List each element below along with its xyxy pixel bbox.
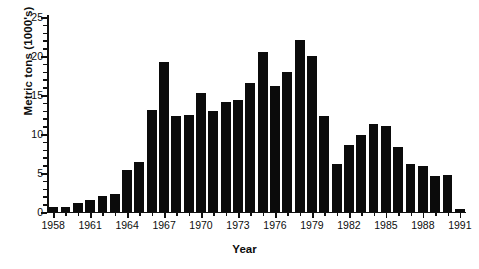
y-tick	[43, 126, 48, 127]
x-tick	[312, 212, 314, 218]
x-tick-label: 1970	[189, 219, 212, 231]
bar	[147, 110, 157, 212]
bar	[73, 203, 83, 212]
x-tick	[386, 212, 388, 218]
x-tick	[300, 212, 301, 216]
y-tick	[43, 72, 48, 73]
y-tick-label: 0	[37, 206, 43, 218]
x-tick-label: 1967	[152, 219, 175, 231]
x-tick	[78, 212, 79, 216]
bar	[319, 116, 329, 212]
x-tick-label: 1961	[78, 219, 101, 231]
y-tick-label: 5	[37, 167, 43, 179]
x-tick	[250, 212, 251, 216]
bar	[381, 126, 391, 212]
y-tick	[43, 196, 48, 197]
y-tick	[43, 165, 48, 166]
x-tick-label: 1982	[337, 219, 360, 231]
bar	[393, 147, 403, 212]
x-tick-label: 1985	[374, 219, 397, 231]
x-tick-label: 1979	[300, 219, 323, 231]
y-tick	[43, 157, 48, 158]
y-tick-label: 15	[31, 89, 43, 101]
x-tick-label: 1991	[448, 219, 471, 231]
chart-figure: Metric tons (1000's) 0510152025 19581961…	[0, 0, 479, 269]
x-tick	[287, 212, 288, 216]
x-tick	[460, 212, 462, 218]
y-tick	[43, 48, 48, 49]
x-tick	[337, 212, 338, 216]
x-axis-title: Year	[0, 243, 479, 255]
bar	[98, 196, 108, 212]
bar	[171, 116, 181, 212]
y-tick-label: 25	[31, 11, 43, 23]
bar	[430, 176, 440, 212]
y-tick	[43, 181, 48, 182]
bar	[344, 145, 354, 212]
y-tick	[43, 142, 48, 143]
bar	[443, 175, 453, 212]
bar	[233, 100, 243, 212]
x-tick-label: 1958	[41, 219, 64, 231]
x-tick-label: 1976	[263, 219, 286, 231]
bar	[369, 124, 379, 212]
x-tick	[448, 212, 449, 216]
x-tick	[127, 212, 129, 218]
x-tick	[423, 212, 425, 218]
bar	[134, 162, 144, 212]
bar	[48, 207, 58, 212]
x-tick	[374, 212, 375, 216]
y-tick	[43, 118, 48, 119]
x-tick	[152, 212, 153, 216]
bar	[295, 40, 305, 212]
y-tick	[43, 64, 48, 65]
x-tick	[189, 212, 190, 216]
x-tick-label: 1988	[411, 219, 434, 231]
y-tick	[43, 87, 48, 88]
bar	[110, 194, 120, 212]
x-tick	[102, 212, 103, 216]
x-tick	[53, 212, 55, 218]
x-tick	[263, 212, 264, 216]
y-tick-label: 20	[31, 50, 43, 62]
x-tick	[275, 212, 277, 218]
y-tick	[43, 111, 48, 112]
y-tick	[43, 103, 48, 104]
bar	[208, 111, 218, 212]
bar	[122, 170, 132, 212]
bar	[270, 86, 280, 212]
x-tick	[65, 212, 66, 216]
x-tick	[238, 212, 240, 218]
bar	[245, 83, 255, 212]
x-tick	[201, 212, 203, 218]
bar	[196, 93, 206, 212]
y-tick	[43, 150, 48, 151]
bar	[332, 164, 342, 212]
x-tick	[349, 212, 351, 218]
x-tick-label: 1973	[226, 219, 249, 231]
y-tick	[43, 40, 48, 41]
bar	[356, 135, 366, 212]
x-tick	[213, 212, 214, 216]
x-tick	[361, 212, 362, 216]
x-tick	[226, 212, 227, 216]
bar	[282, 72, 292, 212]
plot-area: 0510152025 19581961196419671970197319761…	[47, 17, 466, 212]
x-tick	[411, 212, 412, 216]
bar	[406, 164, 416, 212]
bar	[418, 166, 428, 212]
bar	[258, 52, 268, 212]
y-tick-label: 10	[31, 128, 43, 140]
bar	[159, 62, 169, 212]
x-tick-label: 1964	[115, 219, 138, 231]
x-tick	[176, 212, 177, 216]
y-tick	[43, 189, 48, 190]
x-tick	[398, 212, 399, 216]
bar	[221, 102, 231, 212]
x-tick	[90, 212, 92, 218]
bar	[85, 200, 95, 212]
x-tick	[324, 212, 325, 216]
y-tick	[43, 79, 48, 80]
x-axis-title-text: Year	[232, 243, 256, 255]
bar	[184, 115, 194, 212]
